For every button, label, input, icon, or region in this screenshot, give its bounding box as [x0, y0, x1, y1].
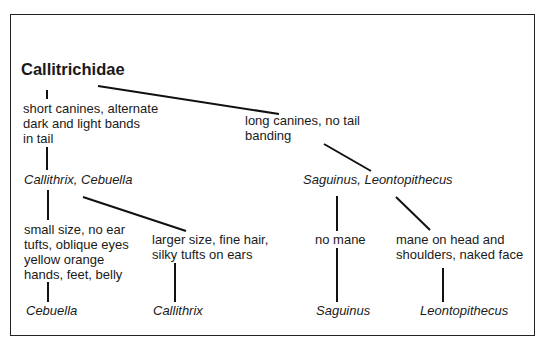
node-root-callitrichidae: Callitrichidae	[21, 60, 125, 78]
node-trait-long-canines: long canines, no tail banding	[245, 113, 360, 143]
node-trait-no-mane: no mane	[315, 232, 366, 247]
edge-saguinus-leontopithecus-mane	[396, 197, 430, 230]
node-taxon-callithrix: Callithrix	[153, 303, 203, 318]
node-taxon-leontopithecus: Leontopithecus	[420, 303, 508, 318]
edge-long-canines-saguinus-leontopithecus	[324, 144, 371, 171]
node-taxon-callithrix-cebuella: Callithrix, Cebuella	[24, 172, 132, 187]
node-trait-small-size: small size, no ear tufts, oblique eyes y…	[24, 222, 129, 282]
node-taxon-saguinus-leontopithecus: Saguinus, Leontopithecus	[303, 172, 453, 187]
node-trait-short-canines: short canines, alternate dark and light …	[23, 101, 158, 146]
node-taxon-saguinus: Saguinus	[316, 303, 370, 318]
node-taxon-cebuella: Cebuella	[26, 303, 77, 318]
node-trait-mane: mane on head and shoulders, naked face	[396, 232, 523, 262]
node-trait-larger-size: larger size, fine hair, silky tufts on e…	[152, 232, 268, 262]
